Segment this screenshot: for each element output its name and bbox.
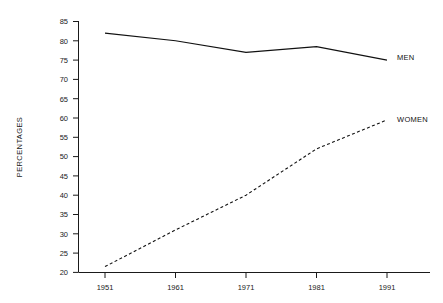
y-tick-label: 65 xyxy=(60,95,68,104)
y-tick-label: 55 xyxy=(60,133,68,142)
series-label-men: MEN xyxy=(397,53,415,62)
x-tick-labels: 1951 1961 1971 1981 1991 xyxy=(97,283,396,292)
series-line-men xyxy=(105,33,387,60)
y-tick-label: 50 xyxy=(60,152,68,161)
y-tick-label: 70 xyxy=(60,75,68,84)
y-tick-label: 20 xyxy=(60,268,68,277)
y-tick-label: 80 xyxy=(60,37,68,46)
y-tick-marks xyxy=(73,22,79,273)
series-label-women: WOMEN xyxy=(397,115,428,124)
chart-svg: 85 80 75 70 65 60 55 50 45 40 35 30 25 2… xyxy=(0,0,443,303)
y-tick-label: 35 xyxy=(60,210,68,219)
line-chart: 85 80 75 70 65 60 55 50 45 40 35 30 25 2… xyxy=(0,0,443,303)
x-tick-label: 1981 xyxy=(308,283,325,292)
y-tick-label: 45 xyxy=(60,172,68,181)
x-tick-label: 1991 xyxy=(379,283,396,292)
y-tick-label: 40 xyxy=(60,191,68,200)
x-tick-label: 1951 xyxy=(97,283,114,292)
y-tick-labels: 85 80 75 70 65 60 55 50 45 40 35 30 25 2… xyxy=(60,17,68,277)
y-tick-label: 85 xyxy=(60,17,68,26)
x-tick-marks xyxy=(105,273,387,279)
series-line-women xyxy=(105,120,387,267)
y-axis-title: PERCENTAGES xyxy=(15,117,24,178)
chart-canvas: 85 80 75 70 65 60 55 50 45 40 35 30 25 2… xyxy=(0,0,443,303)
y-tick-label: 25 xyxy=(60,249,68,258)
x-tick-label: 1971 xyxy=(238,283,255,292)
y-tick-label: 60 xyxy=(60,114,68,123)
y-tick-label: 75 xyxy=(60,56,68,65)
y-tick-label: 30 xyxy=(60,230,68,239)
x-tick-label: 1961 xyxy=(167,283,184,292)
